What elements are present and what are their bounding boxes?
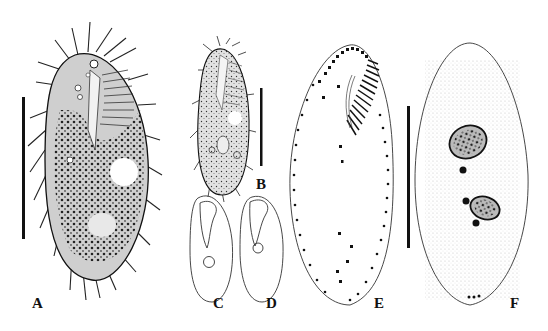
scale-bar-a [22, 97, 25, 239]
panel-f-dorsal [415, 43, 528, 305]
panel-label-e: E [374, 296, 384, 311]
panel-a-cell [28, 22, 162, 300]
panel-d-outline [240, 196, 283, 302]
panel-b-cell [190, 36, 256, 202]
panel-label-b: B [256, 177, 266, 192]
panel-label-d: D [266, 296, 277, 311]
panel-label-f: F [510, 296, 519, 311]
panel-c-outline [190, 196, 233, 302]
panel-label-a: A [32, 296, 43, 311]
figure-canvas [0, 0, 548, 331]
panel-e-infraciliature [290, 45, 393, 305]
scale-bar-b [260, 88, 263, 166]
scale-bar-ef [407, 106, 410, 248]
panel-label-c: C [213, 296, 224, 311]
